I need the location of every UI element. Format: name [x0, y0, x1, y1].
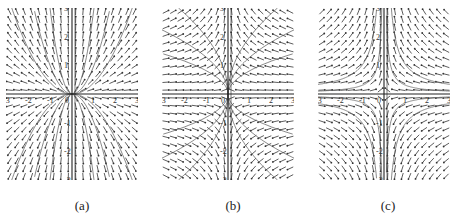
- svg-text:1: 1: [376, 61, 380, 70]
- svg-text:-3: -3: [220, 176, 227, 180]
- svg-text:-2: -2: [337, 96, 344, 105]
- svg-text:-2: -2: [220, 147, 227, 156]
- svg-text:3: 3: [291, 96, 294, 105]
- svg-text:-3: -3: [376, 176, 383, 180]
- svg-text:-1: -1: [47, 96, 54, 105]
- svg-text:3: 3: [135, 96, 138, 105]
- svg-text:-1: -1: [203, 96, 210, 105]
- svg-text:1: 1: [247, 96, 251, 105]
- svg-text:2: 2: [220, 33, 224, 42]
- svg-text:0: 0: [377, 96, 381, 105]
- svg-text:3: 3: [447, 96, 450, 105]
- caption-b: (b): [203, 198, 263, 214]
- svg-text:1: 1: [64, 61, 68, 70]
- svg-text:-1: -1: [376, 119, 383, 128]
- svg-text:2: 2: [425, 96, 429, 105]
- svg-text:2: 2: [376, 33, 380, 42]
- vector-field-plot-c: -3-2-1123321-1-2-30: [318, 8, 450, 180]
- svg-text:-1: -1: [220, 119, 227, 128]
- svg-text:1: 1: [220, 61, 224, 70]
- svg-text:2: 2: [64, 33, 68, 42]
- svg-text:-3: -3: [318, 96, 322, 105]
- svg-text:-2: -2: [64, 147, 71, 156]
- svg-text:-2: -2: [181, 96, 188, 105]
- svg-text:3: 3: [64, 8, 68, 13]
- svg-text:1: 1: [91, 96, 95, 105]
- caption-a: (a): [52, 198, 112, 214]
- svg-text:-1: -1: [64, 119, 71, 128]
- svg-text:1: 1: [403, 96, 407, 105]
- svg-text:-1: -1: [359, 96, 366, 105]
- svg-text:-3: -3: [6, 96, 10, 105]
- svg-text:-3: -3: [64, 176, 71, 180]
- svg-text:0: 0: [221, 96, 225, 105]
- svg-text:-3: -3: [162, 96, 166, 105]
- svg-text:2: 2: [269, 96, 273, 105]
- svg-text:3: 3: [220, 8, 224, 13]
- vector-field-plot-b: -3-2-1123321-1-2-30: [162, 8, 294, 180]
- svg-text:0: 0: [65, 96, 69, 105]
- svg-text:3: 3: [376, 8, 380, 13]
- vector-field-plot-a: -3-2-1123321-1-2-30: [6, 8, 138, 180]
- caption-c: (c): [358, 198, 418, 214]
- svg-text:2: 2: [113, 96, 117, 105]
- svg-text:-2: -2: [25, 96, 32, 105]
- svg-text:-2: -2: [376, 147, 383, 156]
